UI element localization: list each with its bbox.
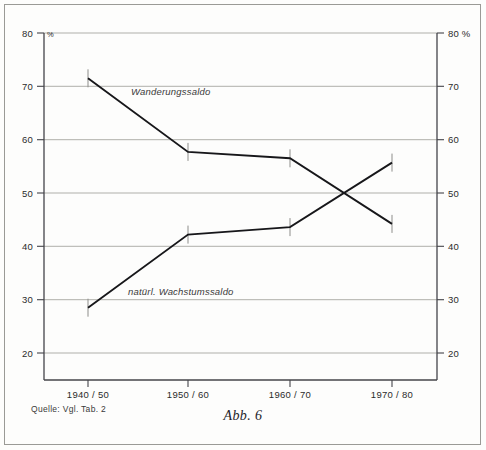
y-tick-label-left-20: 20 [22, 348, 33, 359]
x-axis-ticks [88, 380, 392, 387]
y-tick-label-right-20: 20 [448, 348, 459, 359]
y-tick-label-left-30: 30 [22, 294, 33, 305]
y-tick-label-left-40: 40 [22, 241, 33, 252]
y-tick-label-right-30: 30 [448, 294, 459, 305]
y-tick-label-left-50: 50 [22, 188, 33, 199]
y-tick-label-right-50: 50 [448, 188, 459, 199]
y-tick-label-right-60: 60 [448, 134, 459, 145]
x-tick-label-1940-50: 1940 / 50 [67, 389, 109, 400]
y-axis-right-ticks [437, 33, 444, 353]
y-tick-label-right-70: 70 [448, 81, 459, 92]
y-tick-label-left-60: 60 [22, 134, 33, 145]
series-line-wanderungssaldo-visible [88, 78, 392, 224]
series-annotation-natuerl-wachstumssaldo: natürl. Wachstumssaldo [128, 286, 234, 297]
percent-symbol-left: % [47, 30, 54, 39]
figure-caption: Abb. 6 [0, 408, 486, 424]
y-tick-label-left-70: 70 [22, 81, 33, 92]
y-tick-label-right-80: 80 % [448, 28, 471, 39]
y-tick-label-left-80: 80 [22, 28, 33, 39]
series-annotation-wanderungssaldo: Wanderungssaldo [131, 86, 210, 97]
y-axis-left-ticks [37, 33, 44, 353]
gridlines [44, 33, 437, 353]
y-tick-label-right-40: 40 [448, 241, 459, 252]
line-chart-svg: 80 70 60 50 40 30 20 % 80 % 70 60 50 40 … [0, 0, 486, 450]
x-tick-label-1950-60: 1950 / 60 [167, 389, 209, 400]
x-tick-label-1970-80: 1970 / 80 [371, 389, 413, 400]
x-tick-label-1960-70: 1960 / 70 [269, 389, 311, 400]
figure-page: 80 70 60 50 40 30 20 % 80 % 70 60 50 40 … [0, 0, 486, 450]
chart-canvas: 80 70 60 50 40 30 20 % 80 % 70 60 50 40 … [0, 0, 486, 450]
